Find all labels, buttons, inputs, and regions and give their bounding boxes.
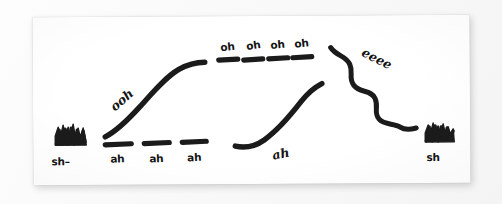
paper-sheet: sh– ooh ah ah ah oh — [32, 15, 470, 186]
oh-tone-dash-1 — [219, 59, 238, 60]
oh-tone-label-1: oh — [220, 40, 236, 54]
graphic-notation-score: sh– ooh ah ah ah oh — [32, 15, 470, 186]
sh-ending-scribble-group: sh — [425, 123, 454, 163]
oh-tone-label-3: oh — [270, 38, 285, 51]
ooh-label: ooh — [107, 86, 136, 114]
ooh-rising-glide-group: ooh — [105, 62, 205, 137]
oh-tone-dash-4 — [293, 57, 312, 58]
oh-tone-label-2: oh — [245, 38, 261, 52]
ah-rising-glide-curve — [235, 84, 322, 147]
oh-sustained-tones-group: oh oh oh oh — [219, 36, 312, 60]
ah-tone-dash-2 — [144, 143, 169, 144]
ah-sustained-tones-group: ah ah ah — [105, 141, 206, 165]
oh-tone-label-4: oh — [294, 36, 310, 50]
sh-ending-label: sh — [426, 151, 439, 163]
sh-onset-scribble-group: sh– — [51, 124, 86, 167]
oh-tone-dash-3 — [269, 58, 288, 59]
eeee-label: eeee — [359, 45, 394, 73]
ah-tone-dash-3 — [182, 141, 206, 142]
ah-tone-dash-1 — [105, 144, 131, 145]
ah-tone-label-2: ah — [149, 152, 164, 165]
ah-glide-label: ah — [271, 144, 291, 162]
ah-tone-label-3: ah — [187, 151, 202, 164]
ah-rising-glide-group: ah — [235, 84, 322, 163]
scan-background: sh– ooh ah ah ah oh — [0, 0, 502, 204]
eeee-descending-wave-group: eeee — [331, 44, 417, 130]
sh-onset-label: sh– — [51, 155, 69, 167]
oh-tone-dash-2 — [244, 59, 263, 60]
ah-tone-label-1: ah — [110, 152, 125, 165]
